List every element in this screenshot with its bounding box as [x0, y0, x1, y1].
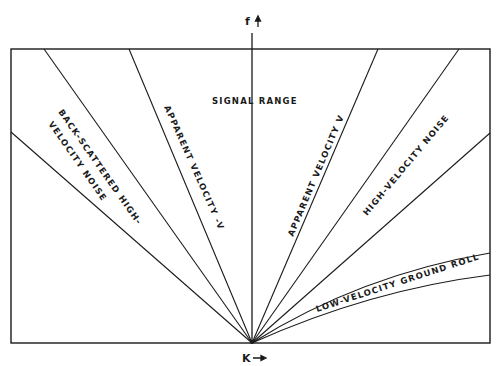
velocity-lines [11, 49, 490, 343]
label-ground-roll: LOW-VELOCITY GROUND ROLL [315, 251, 481, 313]
k-arrow-icon [253, 356, 266, 361]
label-signal-range: SIGNAL RANGE [212, 96, 298, 106]
label-apparent-velocity-pos: APPARENT VELOCITY V [286, 113, 347, 238]
fk-diagram: f K BACK-SCATTERED HIGH- VELOCITY NOISE … [0, 0, 500, 366]
label-apparent-velocity-neg: APPARENT VELOCITY -V [162, 104, 226, 232]
line-left-edge [11, 132, 252, 343]
label-back-scattered-1: BACK-SCATTERED HIGH- [56, 107, 144, 226]
k-axis-label: K [242, 352, 251, 365]
line-right-edge [252, 133, 490, 343]
f-arrow-icon [256, 16, 261, 27]
origin-point [250, 340, 254, 344]
f-axis-label: f [245, 15, 250, 28]
label-high-velocity-noise: HIGH-VELOCITY NOISE [361, 112, 451, 217]
